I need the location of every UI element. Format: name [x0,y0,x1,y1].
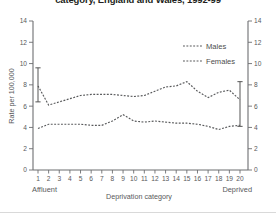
y-tick-label-right: 6 [254,103,258,110]
x-tick-label: 7 [100,175,104,182]
x-tick-label: 8 [111,175,115,182]
x-tick-label: 5 [79,175,83,182]
x-tick-label: 18 [215,175,223,182]
y-tick-label-left: 14 [20,17,28,24]
x-tick-label: 9 [121,175,125,182]
y-tick-label-left: 0 [23,166,27,173]
x-tick-label: 16 [194,175,202,182]
y-tick-label-left: 12 [20,39,28,46]
x-tick-label: 2 [47,175,51,182]
x-tick-label: 13 [162,175,170,182]
chart-figure: category, England and Wales, 1992-99 002… [0,0,276,213]
series-line-females [38,115,240,130]
y-tick-label-right: 4 [254,124,258,131]
y-axis-title: Rate per 100,000 [7,68,16,124]
y-tick-label-right: 10 [254,60,262,67]
y-tick-label-right: 14 [254,17,262,24]
x-tick-label: 14 [173,175,181,182]
x-axis-end-label-deprived: Deprived [222,185,252,194]
legend-label-females: Females [206,57,235,66]
y-tick-label-right: 2 [254,145,258,152]
x-tick-label: 11 [141,175,148,182]
x-tick-label: 10 [130,175,138,182]
chart-plot-area: 0022446688101012121414123456789101112131… [0,0,276,213]
y-tick-label-left: 8 [23,81,27,88]
x-tick-label: 12 [151,175,159,182]
series-line-males [38,82,240,105]
x-tick-label: 4 [68,175,72,182]
y-tick-label-left: 4 [23,124,27,131]
legend-label-males: Males [206,42,226,51]
x-tick-label: 15 [183,175,191,182]
x-tick-label: 6 [89,175,93,182]
x-tick-label: 1 [36,175,40,182]
y-tick-label-right: 12 [254,39,262,46]
y-tick-label-left: 2 [23,145,27,152]
y-tick-label-left: 6 [23,103,27,110]
x-axis-title: Deprivation category [106,192,172,201]
x-tick-label: 20 [236,175,244,182]
y-tick-label-right: 8 [254,81,258,88]
footer-divider [0,212,276,213]
x-tick-label: 19 [226,175,234,182]
y-tick-label-right: 0 [254,166,258,173]
x-tick-label: 3 [57,175,61,182]
y-tick-label-left: 10 [20,60,28,67]
x-axis-end-label-affluent: Affluent [32,185,57,194]
x-tick-label: 17 [204,175,212,182]
